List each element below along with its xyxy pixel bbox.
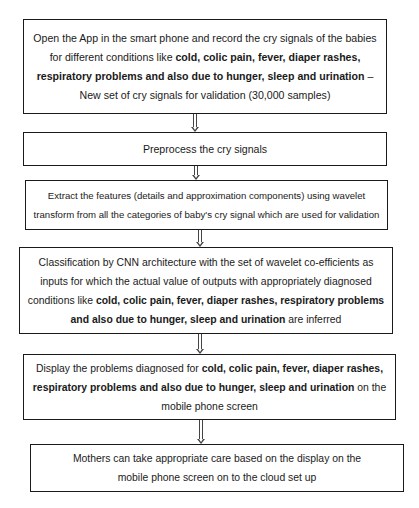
text-segment: Display the problems diagnosed for [36, 363, 202, 374]
text-segment: Extract the features (details and approx… [34, 190, 380, 220]
flow-step-record-cry-signals: Open the App in the smart phone and reco… [23, 19, 387, 114]
step-text: Display the problems diagnosed for cold,… [30, 359, 389, 416]
step-text: Extract the features (details and approx… [32, 186, 381, 224]
flow-step-display-diagnosis: Display the problems diagnosed for cold,… [23, 354, 396, 420]
flow-step-cnn-classification: Classification by CNN architecture with … [19, 247, 393, 334]
flow-step-preprocess: Preprocess the cry signals [23, 132, 387, 166]
step-text: Preprocess the cry signals [143, 140, 267, 159]
down-arrow-icon [197, 420, 205, 444]
text-segment: Preprocess the cry signals [143, 143, 267, 155]
down-arrow-icon [192, 166, 200, 180]
down-arrow-icon [196, 334, 204, 354]
step-text: Open the App in the smart phone and reco… [30, 29, 380, 105]
text-segment: Mothers can take appropriate care based … [73, 453, 361, 483]
flow-step-mother-care: Mothers can take appropriate care based … [30, 444, 404, 492]
down-arrow-icon [196, 230, 204, 247]
down-arrow-icon [191, 114, 199, 132]
flow-step-feature-extraction: Extract the features (details and approx… [25, 180, 388, 230]
step-text: Mothers can take appropriate care based … [61, 449, 373, 487]
step-text: Classification by CNN architecture with … [26, 253, 386, 329]
text-segment: are inferred [285, 314, 341, 325]
